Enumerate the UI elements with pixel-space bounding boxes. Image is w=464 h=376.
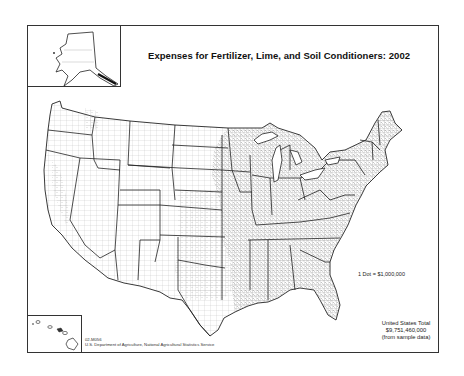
hawaii-inset: [27, 315, 82, 353]
total-note: (from sample data): [374, 334, 438, 341]
source-credit: U.S. Department of Agriculture, National…: [85, 342, 214, 347]
total-value: $9,751,460,000: [374, 327, 438, 334]
map-credit: 02-M056 U.S. Department of Agriculture, …: [85, 337, 214, 347]
alaska-inset: [27, 25, 121, 87]
map-title: Expenses for Fertilizer, Lime, and Soil …: [148, 50, 410, 61]
dot-legend: 1 Dot = $1,000,000: [358, 271, 405, 277]
total-label: United States Total: [374, 320, 438, 327]
us-total-summary: United States Total $9,751,460,000 (from…: [374, 320, 438, 341]
alaska-map: [28, 26, 122, 88]
hawaii-map: [28, 316, 83, 354]
